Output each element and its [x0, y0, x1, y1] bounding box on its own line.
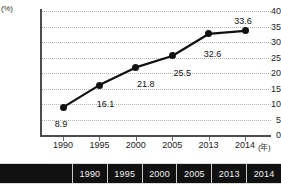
- data-point-value-label: 25.5: [173, 69, 191, 78]
- data-point-marker: [242, 27, 249, 34]
- year-table-cell: 1990: [72, 164, 107, 183]
- year-table-cell: 1995: [107, 164, 142, 183]
- data-point-value-label: 21.8: [137, 80, 155, 89]
- line-chart-figure: (%) (年) 0510152025303540 199019952000200…: [0, 0, 281, 158]
- data-point-value-label: 32.6: [204, 50, 222, 59]
- year-table-blank-cell: [0, 164, 72, 183]
- year-table-cell: 2005: [176, 164, 211, 183]
- data-point-value-label: 33.6: [234, 17, 252, 26]
- data-point-marker: [60, 104, 67, 111]
- data-point-marker: [96, 82, 103, 89]
- data-point-value-label: 16.1: [97, 100, 115, 109]
- year-table: 199019952000200520132014: [0, 163, 281, 184]
- year-table-cell: 2014: [246, 164, 281, 183]
- data-point-value-label: 8.9: [55, 120, 68, 129]
- year-table-cell: 2000: [142, 164, 177, 183]
- year-table-cell: 2013: [211, 164, 246, 183]
